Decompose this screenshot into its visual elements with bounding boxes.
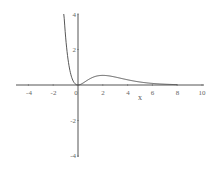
x-axis-label: x [138,93,142,102]
y-tick-label: -4 [70,152,76,160]
x-tick-label: 2 [101,89,105,97]
x-tick-label: 6 [151,89,155,97]
plot-area: -4 -2 0 2 4 6 8 10 x 4 2 -2 -4 [0,0,219,171]
y-tick-label: 2 [73,46,77,54]
y-tick-label: -2 [70,117,76,125]
x-tick-label: 0 [74,89,78,97]
x-tick-label: -2 [51,89,57,97]
function-curve [64,14,177,85]
y-tick-label: 4 [73,11,77,19]
x-tick-label: 4 [126,89,130,97]
x-tick-label: 8 [176,89,180,97]
x-tick-label: -4 [26,89,32,97]
x-tick-label: 10 [199,89,207,97]
